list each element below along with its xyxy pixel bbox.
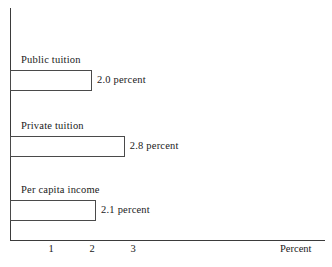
bar-value-label-per-capita-income: 2.1 percent [101,204,150,216]
x-axis-title: Percent [280,243,312,255]
bar-value-label-public-tuition: 2.0 percent [97,74,146,86]
bar-value-label-private-tuition: 2.8 percent [130,140,179,152]
bar-per-capita-income [10,200,96,221]
bar-category-label-private-tuition: Private tuition [21,120,84,132]
x-axis-tick-3: 3 [126,243,140,255]
x-axis-line [10,240,325,241]
bar-chart: Public tuition 2.0 percent Private tuiti… [0,0,332,267]
x-axis-tick-1: 1 [44,243,58,255]
bar-private-tuition [10,136,125,157]
bar-public-tuition [10,70,92,91]
x-axis-tick-2: 2 [85,243,99,255]
bar-category-label-per-capita-income: Per capita income [21,184,100,196]
bar-category-label-public-tuition: Public tuition [21,54,81,66]
